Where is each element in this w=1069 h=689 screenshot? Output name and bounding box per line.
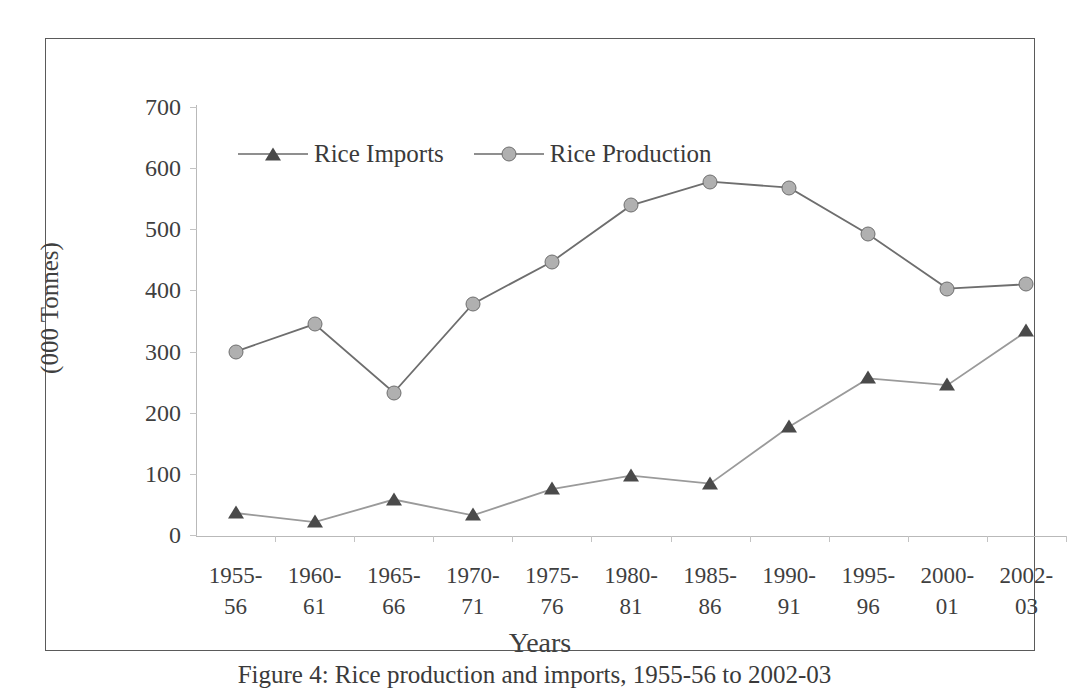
x-tick-label-line2: 03 [987,591,1066,622]
x-tick-mark [987,536,988,542]
data-point-rice-imports[interactable] [307,515,323,528]
data-point-rice-imports[interactable] [623,468,639,481]
figure-caption: Figure 4: Rice production and imports, 1… [0,661,1069,689]
series-line-rice-production [236,182,1027,393]
x-tick-label-line1: 1980- [591,560,670,591]
figure-frame: (000 Tonnes) 7006005004003002001000 1955… [45,38,1035,651]
x-tick-label-line2: 96 [829,591,908,622]
data-point-rice-imports[interactable] [1018,324,1034,337]
y-tick-label: 300 [101,340,181,364]
x-tick-mark [671,536,672,542]
x-tick-mark [512,536,513,542]
x-tick-mark [1066,536,1067,542]
x-tick-label-line2: 71 [433,591,512,622]
x-tick-mark [750,536,751,542]
x-tick-label-line1: 1970- [433,560,512,591]
x-tick-label-line2: 61 [275,591,354,622]
x-tick-label-line1: 1960- [275,560,354,591]
x-tick-label: 1955-56 [196,560,275,622]
x-tick-mark [908,536,909,542]
x-tick-label-line2: 56 [196,591,275,622]
y-tick-label: 100 [101,462,181,486]
x-tick-label-line2: 76 [512,591,591,622]
data-point-rice-production[interactable] [386,385,401,400]
x-tick-label: 1965-66 [354,560,433,622]
x-tick-mark [829,536,830,542]
x-tick-mark [354,536,355,542]
data-point-rice-production[interactable] [307,317,322,332]
x-tick-label: 1995-96 [829,560,908,622]
data-point-rice-imports[interactable] [860,371,876,384]
x-tick-label: 1970-71 [433,560,512,622]
data-point-rice-imports[interactable] [228,505,244,518]
x-tick-label: 1985-86 [671,560,750,622]
y-tick-label: 200 [101,401,181,425]
x-tick-mark [433,536,434,542]
x-tick-label-line1: 1975- [512,560,591,591]
x-tick-label: 2002-03 [987,560,1066,622]
x-tick-label: 1960-61 [275,560,354,622]
y-tick-label: 700 [101,95,181,119]
x-tick-label-line1: 2002- [987,560,1066,591]
y-tick-label: 500 [101,217,181,241]
x-tick-label-line1: 1965- [354,560,433,591]
x-tick-label-line2: 86 [671,591,750,622]
x-tick-label-line1: 2000- [908,560,987,591]
x-tick-label-line1: 1985- [671,560,750,591]
data-point-rice-production[interactable] [940,281,955,296]
data-point-rice-production[interactable] [544,254,559,269]
y-axis-title: (000 Tonnes) [36,242,64,374]
y-tick-label: 0 [101,523,181,547]
x-tick-label: 1975-76 [512,560,591,622]
data-point-rice-production[interactable] [703,174,718,189]
x-tick-label-line2: 01 [908,591,987,622]
y-tick-label: 400 [101,278,181,302]
x-axis-line [196,536,1066,537]
x-tick-label: 2000-01 [908,560,987,622]
x-tick-mark [275,536,276,542]
plot-area [196,107,1066,535]
data-point-rice-imports[interactable] [465,508,481,521]
x-tick-label: 1990-91 [750,560,829,622]
x-axis-title: Years [46,627,1034,659]
data-point-rice-production[interactable] [465,296,480,311]
data-point-rice-production[interactable] [228,344,243,359]
data-point-rice-imports[interactable] [544,482,560,495]
y-tick-mark [190,535,197,536]
data-point-rice-imports[interactable] [939,378,955,391]
data-point-rice-imports[interactable] [386,492,402,505]
data-point-rice-imports[interactable] [781,419,797,432]
x-tick-label-line1: 1990- [750,560,829,591]
x-tick-label-line1: 1995- [829,560,908,591]
y-tick-label: 600 [101,156,181,180]
x-tick-label-line2: 66 [354,591,433,622]
x-tick-label-line2: 91 [750,591,829,622]
data-point-rice-production[interactable] [1019,277,1034,292]
x-tick-label-line2: 81 [591,591,670,622]
series-line-rice-imports [236,331,1027,522]
x-tick-label-line1: 1955- [196,560,275,591]
x-tick-mark [591,536,592,542]
data-point-rice-production[interactable] [782,180,797,195]
data-point-rice-imports[interactable] [702,476,718,489]
data-point-rice-production[interactable] [861,227,876,242]
data-point-rice-production[interactable] [624,198,639,213]
x-tick-label: 1980-81 [591,560,670,622]
